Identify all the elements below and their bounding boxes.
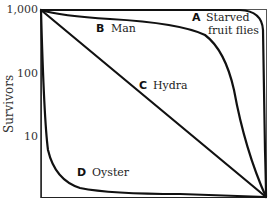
curve-c-hydra <box>41 10 266 197</box>
y-tick-1000: 1,000 <box>7 3 39 16</box>
y-tick-100: 100 <box>17 67 38 80</box>
survivorship-chart: 1,000 100 10 Survivors B Man A Starved f… <box>0 0 272 205</box>
curve-c-letter: C <box>139 79 147 92</box>
curve-d-label: Oyster <box>92 166 130 179</box>
curve-b-label: Man <box>111 22 136 35</box>
curve-a-label-line1: Starved <box>206 11 250 24</box>
curve-a-letter: A <box>192 11 201 24</box>
y-axis-label: Survivors <box>2 75 16 133</box>
y-tick-10: 10 <box>24 130 38 143</box>
curve-b-letter: B <box>96 22 104 35</box>
curve-d-letter: D <box>77 166 86 179</box>
curve-a-label-line2: fruit flies <box>208 24 259 37</box>
curve-c-label: Hydra <box>153 79 188 92</box>
